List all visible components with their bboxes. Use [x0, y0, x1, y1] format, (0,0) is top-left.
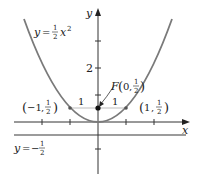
y-axis-label: y: [85, 7, 93, 20]
y-axis-arrow-icon: [95, 8, 101, 16]
svg-text:=: =: [42, 27, 50, 38]
svg-text:y: y: [33, 26, 41, 39]
svg-text:1: 1: [40, 140, 44, 148]
segment-label-left: 1: [78, 96, 84, 107]
svg-text:2: 2: [157, 108, 161, 116]
focus-label: F ( 0 , 1 2 ): [110, 78, 145, 95]
y-axis: [95, 8, 101, 174]
segment-label-right: 1: [112, 96, 118, 107]
svg-text:−: −: [31, 143, 39, 154]
svg-text:x: x: [60, 26, 67, 39]
directrix-label: y = − 1 2: [13, 140, 45, 157]
svg-text:−1: −1: [27, 102, 42, 113]
svg-text:,: ,: [41, 102, 44, 113]
svg-text:2: 2: [40, 149, 44, 157]
point-left-label: ( −1 , 1 2 ): [22, 99, 58, 116]
svg-text:2: 2: [53, 33, 57, 41]
svg-text:y: y: [13, 142, 21, 155]
svg-text:): ): [140, 79, 145, 94]
parabola-equation-label: y = 1 2 x 2: [33, 24, 71, 41]
svg-text:1: 1: [134, 78, 138, 86]
svg-text:): ): [164, 100, 169, 115]
y-tick-label-2: 2: [86, 62, 93, 75]
svg-text:): ): [53, 100, 58, 115]
point-right: [124, 106, 128, 110]
focus-pointer-arrowhead-icon: [99, 101, 104, 107]
svg-text:,: ,: [129, 81, 132, 92]
point-left: [68, 106, 72, 110]
x-axis-label: x: [182, 124, 189, 137]
parabola-diagram: y = 1 2 x 2 y x 2 F ( 0 , 1 2 ) 1 1 ( −1…: [0, 0, 202, 184]
svg-text:2: 2: [134, 87, 138, 95]
svg-text:1: 1: [46, 99, 50, 107]
svg-text:2: 2: [46, 108, 50, 116]
svg-text:1: 1: [144, 102, 150, 113]
svg-text:=: =: [22, 143, 30, 154]
svg-text:,: ,: [151, 102, 154, 113]
svg-text:1: 1: [157, 99, 161, 107]
svg-text:1: 1: [53, 24, 57, 32]
svg-text:2: 2: [67, 25, 71, 33]
point-right-label: ( 1 , 1 2 ): [139, 99, 169, 116]
